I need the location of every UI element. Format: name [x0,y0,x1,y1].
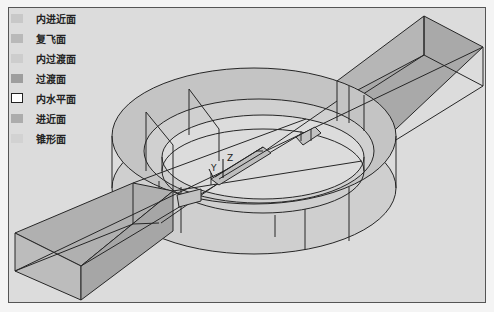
swatch-approach [11,114,23,123]
obstacle-limitation-surfaces-diagram [9,8,487,304]
swatch-inner-approach [11,14,23,23]
legend-item-transitional: 过渡面 [11,70,66,86]
legend-item-approach: 进近面 [11,110,66,126]
legend-item-inner-horizontal: 内水平面 [11,90,76,106]
figure-frame: Y Z 内进近面 复飞面 内过渡面 过渡面 内水平面 进近面 锥形面 [8,7,486,303]
legend-item-conical: 锥形面 [11,130,66,146]
swatch-conical [11,134,23,143]
swatch-inner-transitional [11,54,23,63]
swatch-transitional [11,74,23,83]
y-axis-label: Y [211,163,217,173]
legend-item-missed-approach: 复飞面 [11,30,66,46]
legend-item-inner-transitional: 内过渡面 [11,50,76,66]
legend-item-inner-approach: 内进近面 [11,10,76,26]
z-axis-label: Z [227,153,233,163]
swatch-inner-horizontal [11,93,23,103]
swatch-missed-approach [11,34,23,43]
